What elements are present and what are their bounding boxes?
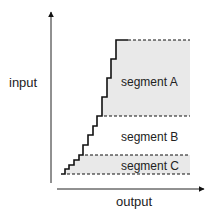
segment-b-label: segment B: [121, 130, 178, 144]
quantization-diagram: input output segment A segment B segment…: [0, 0, 216, 217]
y-axis-label: input: [9, 75, 38, 90]
x-axis-label: output: [116, 194, 153, 209]
segment-c-label: segment C: [121, 159, 179, 173]
segment-a-label: segment A: [121, 75, 178, 89]
